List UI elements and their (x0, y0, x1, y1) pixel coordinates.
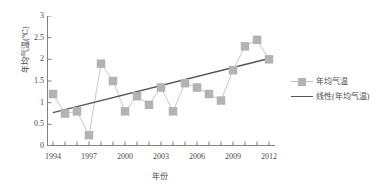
x-axis-tick-label: 2012 (252, 152, 286, 161)
y-axis-tick-label: 1 (22, 99, 44, 107)
data-point-marker (133, 92, 142, 101)
data-point-marker (157, 83, 166, 92)
y-axis-tick-label: 3 (22, 12, 44, 20)
data-point-marker (73, 107, 82, 116)
y-axis-tick-label: 1.5 (22, 77, 44, 85)
legend-item-series: 年均气温 (291, 74, 383, 89)
data-point-marker (145, 101, 154, 110)
x-axis-ticks (53, 142, 269, 146)
data-point-marker (193, 83, 202, 92)
y-axis-tick-label: 2.5 (22, 34, 44, 42)
legend-item-trendline: 线性(年均气温) (291, 89, 383, 104)
y-axis-tick-label: 2 (22, 55, 44, 63)
x-axis-tick-label: 1994 (36, 152, 70, 161)
data-point-marker (61, 109, 70, 118)
plot-area (47, 16, 275, 146)
y-axis-tick-label: 0.5 (22, 120, 44, 128)
legend-line-icon (291, 91, 313, 102)
data-point-marker (97, 59, 106, 68)
data-point-marker (121, 107, 130, 116)
data-point-marker (217, 96, 226, 105)
data-point-marker (229, 66, 238, 75)
x-axis-tick-label: 2009 (216, 152, 250, 161)
data-point-marker (109, 77, 118, 86)
legend-label-series: 年均气温 (316, 77, 348, 86)
data-point-marker (253, 36, 262, 45)
x-axis-tick-label: 2006 (180, 152, 214, 161)
x-axis-tick-label: 1997 (72, 152, 106, 161)
x-axis-tick-label: 2000 (108, 152, 142, 161)
legend-label-trendline: 线性(年均气温) (316, 92, 369, 101)
data-point-marker (241, 42, 250, 51)
chart-container: 年均气温(℃) 00.511.522.53 199419972000200320… (0, 0, 384, 194)
chart-legend: 年均气温 线性(年均气温) (291, 74, 383, 104)
data-point-marker (49, 90, 58, 99)
plot-svg (47, 16, 275, 146)
data-point-marker (265, 55, 274, 64)
y-axis-ticks (48, 16, 52, 146)
x-axis-title: 年份 (45, 170, 275, 181)
legend-marker-icon (291, 76, 313, 87)
data-point-markers (49, 36, 274, 140)
data-point-marker (205, 90, 214, 99)
data-point-marker (85, 131, 94, 140)
x-axis-tick-label: 2003 (144, 152, 178, 161)
data-point-marker (181, 79, 190, 88)
data-point-marker (169, 107, 178, 116)
y-axis-tick-label: 0 (22, 142, 44, 150)
